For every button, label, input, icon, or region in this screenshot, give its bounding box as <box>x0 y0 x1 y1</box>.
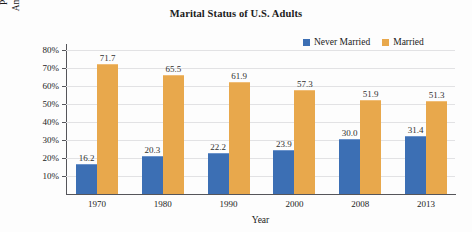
gridline <box>66 158 455 159</box>
y-axis-tick-label: 20% <box>43 153 60 163</box>
chart-container: Marital Status of U.S. Adults Percentage… <box>0 0 472 232</box>
y-axis-tick <box>62 86 66 87</box>
gridline <box>66 176 455 177</box>
y-axis-tick-label: 60% <box>43 81 60 91</box>
bar-value-label: 61.9 <box>231 71 247 81</box>
y-axis-line <box>66 44 67 195</box>
y-axis-tick <box>62 104 66 105</box>
bar-value-label: 65.5 <box>165 64 181 74</box>
legend-item-married[interactable]: Married <box>382 37 424 47</box>
y-axis-tick-label: 80% <box>43 45 60 55</box>
y-axis-tick <box>62 68 66 69</box>
gridline <box>66 140 455 141</box>
legend-swatch-married-icon <box>382 39 389 46</box>
bar-value-label: 51.3 <box>429 90 445 100</box>
chart-title: Marital Status of U.S. Adults <box>0 8 472 19</box>
bar-1980-married[interactable]: 65.5 <box>163 75 184 194</box>
bar-2000-never-married[interactable]: 23.9 <box>273 150 294 194</box>
bar-value-label: 57.3 <box>297 79 313 89</box>
gridline <box>66 86 455 87</box>
x-axis-tick-label-2008: 2008 <box>351 199 369 209</box>
bar-value-label: 31.4 <box>408 125 424 135</box>
bar-2013-married[interactable]: 51.3 <box>426 101 447 194</box>
bar-2008-never-married[interactable]: 30.0 <box>339 139 360 194</box>
x-axis-tick-label-2000: 2000 <box>285 199 303 209</box>
legend-label-never-married: Never Married <box>314 37 370 47</box>
bar-value-label: 16.2 <box>79 153 95 163</box>
bar-1970-never-married[interactable]: 16.2 <box>76 164 97 194</box>
bar-value-label: 20.3 <box>144 145 160 155</box>
x-axis-title: Year <box>66 215 455 225</box>
y-axis-tick-label: 70% <box>43 63 60 73</box>
x-axis-tick-label-2013: 2013 <box>417 199 435 209</box>
bar-value-label: 51.9 <box>363 89 379 99</box>
y-axis-tick <box>62 158 66 159</box>
y-axis-tick <box>62 140 66 141</box>
x-axis-tick-label-1970: 1970 <box>88 199 106 209</box>
gridline <box>66 122 455 123</box>
bar-1970-married[interactable]: 71.7 <box>97 64 118 194</box>
y-axis-tick-label: 10% <box>43 171 60 181</box>
bar-value-label: 22.2 <box>210 142 226 152</box>
bar-1990-married[interactable]: 61.9 <box>229 82 250 194</box>
y-axis-tick-label: 40% <box>43 117 60 127</box>
y-axis-tick <box>62 176 66 177</box>
y-axis-tick-label: 30% <box>43 135 60 145</box>
legend-label-married: Married <box>393 37 424 47</box>
y-axis-tick-label: 50% <box>43 99 60 109</box>
chart-legend: Never Married Married <box>303 37 424 47</box>
legend-item-never-married[interactable]: Never Married <box>303 37 370 47</box>
bar-1990-never-married[interactable]: 22.2 <box>208 153 229 194</box>
bar-value-label: 71.7 <box>100 53 116 63</box>
gridline <box>66 68 455 69</box>
bar-2013-never-married[interactable]: 31.4 <box>405 136 426 194</box>
x-axis-line <box>66 194 456 195</box>
bar-value-label: 30.0 <box>342 128 358 138</box>
gridline <box>66 50 455 51</box>
x-axis-tick-label-1990: 1990 <box>220 199 238 209</box>
bar-2000-married[interactable]: 57.3 <box>294 90 315 194</box>
x-axis-tick-label-1980: 1980 <box>154 199 172 209</box>
bar-1980-never-married[interactable]: 20.3 <box>142 156 163 194</box>
legend-swatch-never-married-icon <box>303 39 310 46</box>
bar-2008-married[interactable]: 51.9 <box>360 100 381 194</box>
plot-area: 10%20%30%40%50%60%70%80%16.271.7197020.3… <box>66 44 455 195</box>
y-axis-tick <box>62 122 66 123</box>
bar-value-label: 23.9 <box>276 139 292 149</box>
gridline <box>66 104 455 105</box>
y-axis-tick <box>62 50 66 51</box>
